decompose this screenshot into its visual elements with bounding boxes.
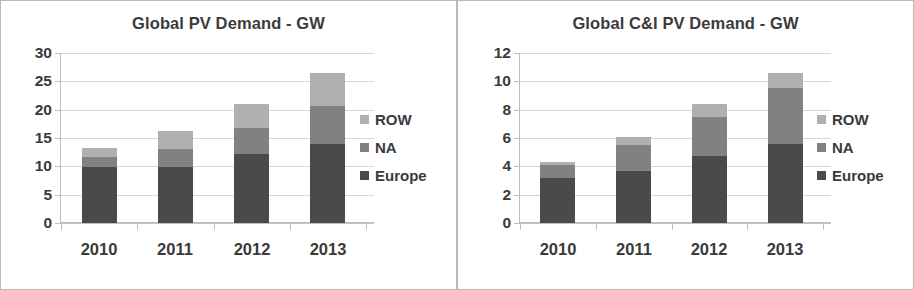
legend-item-row[interactable]: ROW	[817, 105, 901, 133]
y-axis-tick	[514, 166, 520, 167]
bar-2013	[310, 73, 345, 223]
y-axis-tick	[514, 195, 520, 196]
x-axis-tick	[520, 223, 521, 230]
bar-2012	[234, 104, 269, 223]
x-axis-label-2011: 2011	[616, 240, 652, 259]
bar-2011	[158, 131, 193, 223]
chart-title: Global C&I PV Demand - GW	[458, 14, 913, 33]
plot-area-global-ci-pv-demand: 0246810122010201120122013	[520, 53, 823, 223]
y-axis-tick	[55, 53, 61, 54]
bar-segment-row-2013	[768, 73, 803, 89]
bar-2013	[768, 73, 803, 223]
legend-item-na[interactable]: NA	[817, 133, 901, 161]
chart-legend: ROWNAEurope	[360, 105, 444, 189]
legend-label: Europe	[832, 167, 884, 184]
y-axis-tick	[514, 81, 520, 82]
y-axis-tick	[55, 110, 61, 111]
bar-segment-na-2013	[310, 106, 345, 143]
bar-segment-na-2013	[768, 88, 803, 143]
legend-swatch-icon	[817, 115, 826, 124]
y-axis-label: 0	[502, 214, 511, 232]
chart-title: Global PV Demand - GW	[1, 14, 456, 33]
x-axis-label-2013: 2013	[310, 240, 347, 259]
plot-area-global-pv-demand: 0510152025302010201120122013	[61, 53, 366, 223]
y-axis-tick	[55, 195, 61, 196]
x-axis-label-2010: 2010	[81, 240, 118, 259]
legend-label: Europe	[375, 167, 427, 184]
legend-swatch-icon	[817, 171, 826, 180]
legend-swatch-icon	[360, 171, 369, 180]
bar-segment-europe-2010	[82, 167, 117, 223]
x-axis-label-2010: 2010	[540, 240, 577, 259]
chart-panel-global-ci-pv-demand: Global C&I PV Demand - GW 02468101220102…	[457, 0, 914, 290]
bar-segment-europe-2012	[692, 156, 727, 223]
y-axis-label: 30	[35, 44, 52, 62]
bar-segment-row-2011	[616, 137, 651, 146]
y-axis-label: 5	[43, 186, 52, 204]
y-axis-label: 10	[494, 72, 511, 90]
bar-segment-row-2013	[310, 73, 345, 106]
x-axis-tick	[137, 223, 138, 230]
y-axis-tick	[55, 166, 61, 167]
x-axis-tick	[61, 223, 62, 230]
dual-chart-figure: Global PV Demand - GW 051015202530201020…	[0, 0, 914, 290]
x-axis-tick	[823, 223, 824, 230]
bar-segment-na-2011	[616, 145, 651, 171]
bar-segment-europe-2013	[310, 144, 345, 223]
y-axis-tick	[514, 138, 520, 139]
legend-swatch-icon	[360, 143, 369, 152]
x-axis-tick	[596, 223, 597, 230]
bar-segment-europe-2012	[234, 154, 269, 223]
bar-segment-row-2012	[692, 104, 727, 117]
bar-segment-row-2012	[234, 104, 269, 128]
gridline	[61, 223, 374, 224]
legend-item-row[interactable]: ROW	[360, 105, 444, 133]
bar-segment-europe-2011	[616, 171, 651, 223]
gridline	[61, 53, 374, 54]
x-axis-tick	[290, 223, 291, 230]
legend-item-na[interactable]: NA	[360, 133, 444, 161]
bar-segment-row-2011	[158, 131, 193, 149]
bar-segment-na-2010	[540, 165, 575, 178]
x-axis-label-2012: 2012	[234, 240, 271, 259]
chart-panel-global-pv-demand: Global PV Demand - GW 051015202530201020…	[0, 0, 457, 290]
bar-2012	[692, 104, 727, 223]
y-axis-tick	[514, 53, 520, 54]
bar-2010	[540, 162, 575, 223]
y-axis-label: 20	[35, 101, 52, 119]
bar-segment-row-2010	[540, 162, 575, 165]
legend-label: ROW	[375, 111, 412, 128]
legend-swatch-icon	[817, 143, 826, 152]
legend-item-europe[interactable]: Europe	[360, 161, 444, 189]
y-axis-label: 25	[35, 72, 52, 90]
bar-segment-europe-2010	[540, 178, 575, 223]
bar-segment-row-2010	[82, 148, 117, 157]
bar-segment-na-2011	[158, 149, 193, 167]
x-axis-tick	[366, 223, 367, 230]
y-axis-label: 12	[494, 44, 511, 62]
bar-segment-na-2012	[234, 128, 269, 154]
bar-segment-europe-2013	[768, 144, 803, 223]
x-axis-tick	[747, 223, 748, 230]
bar-2010	[82, 148, 117, 223]
bar-segment-europe-2011	[158, 167, 193, 223]
x-axis-tick	[672, 223, 673, 230]
x-axis-label-2011: 2011	[157, 240, 193, 259]
gridline	[520, 53, 831, 54]
y-axis-tick	[514, 110, 520, 111]
legend-item-europe[interactable]: Europe	[817, 161, 901, 189]
y-axis-label: 0	[43, 214, 52, 232]
gridline	[520, 223, 831, 224]
y-axis-label: 2	[502, 186, 511, 204]
legend-label: NA	[832, 139, 854, 156]
x-axis-label-2012: 2012	[691, 240, 728, 259]
legend-label: ROW	[832, 111, 869, 128]
x-axis-label-2013: 2013	[767, 240, 804, 259]
y-axis-label: 10	[35, 157, 52, 175]
legend-label: NA	[375, 139, 397, 156]
legend-swatch-icon	[360, 115, 369, 124]
chart-legend: ROWNAEurope	[817, 105, 901, 189]
bar-segment-na-2010	[82, 157, 117, 168]
bar-2011	[616, 137, 651, 223]
y-axis-label: 8	[502, 101, 511, 119]
